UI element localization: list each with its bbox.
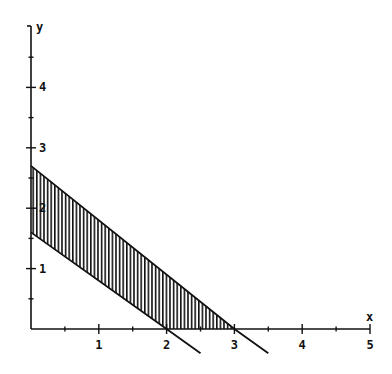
x-tick-label: 1: [95, 338, 102, 352]
y-axis-label: y: [36, 20, 43, 34]
axes: [27, 26, 370, 329]
axis-ticks: [26, 57, 370, 334]
x-tick-label: 4: [299, 338, 306, 352]
y-tick-label: 2: [39, 201, 46, 215]
x-tick-label: 5: [366, 338, 373, 352]
chart: 123451234 x y: [0, 0, 392, 374]
x-axis-label: x: [366, 310, 373, 324]
y-tick-label: 1: [39, 262, 46, 276]
y-tick-label: 3: [39, 141, 46, 155]
boundary-line-2: [31, 166, 268, 353]
x-tick-label: 3: [231, 338, 238, 352]
boundary-lines: [31, 166, 268, 353]
y-tick-label: 4: [39, 80, 46, 94]
x-tick-label: 2: [163, 338, 170, 352]
